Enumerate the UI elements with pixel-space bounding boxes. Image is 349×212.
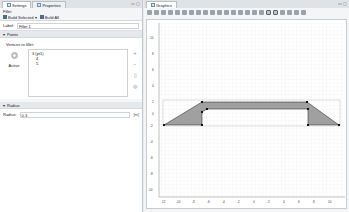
hide-icon[interactable] (245, 10, 250, 15)
graphics-panel: Graphics ▭ ▢ (144, 0, 349, 212)
panel-tabs: Settings Properties ▭ ▢ (0, 0, 142, 8)
svg-text:4: 4 (283, 200, 285, 204)
label-row: Label: Fillet 1 (0, 21, 142, 31)
build-icon (3, 15, 7, 19)
view-3-icon[interactable] (280, 10, 285, 15)
tab-settings[interactable]: Settings (2, 1, 31, 8)
radius-input[interactable]: 0.3 (20, 112, 131, 118)
svg-text:10: 10 (150, 36, 154, 40)
svg-text:6: 6 (152, 68, 154, 72)
zoom-box-icon[interactable] (161, 10, 166, 15)
radius-row: Radius: 0.3 [m] (0, 109, 142, 120)
window-controls[interactable]: ▭ ▢ (338, 1, 347, 6)
settings-panel: Settings Properties ▭ ▢ Fillet Build Sel… (0, 0, 143, 212)
clear-icon[interactable]: ▯ (134, 72, 137, 78)
graphics-tabs: Graphics ▭ ▢ (144, 0, 349, 8)
print-icon[interactable] (301, 10, 306, 15)
screenshot-icon[interactable] (294, 10, 299, 15)
vertices-label: Vertices to fillet: (6, 42, 139, 47)
wireframe-icon[interactable] (231, 10, 236, 15)
svg-text:8: 8 (313, 200, 315, 204)
select-icon[interactable] (182, 10, 187, 15)
svg-text:-4: -4 (222, 200, 225, 204)
label-caption: Label: (3, 23, 14, 28)
svg-text:-10: -10 (148, 188, 153, 192)
select-domains-icon[interactable] (196, 10, 201, 15)
build-all-button[interactable]: Build All (40, 15, 59, 20)
collapse-icon: ▾ (3, 103, 5, 108)
zoom-out-icon[interactable] (154, 10, 159, 15)
show-icon[interactable] (252, 10, 257, 15)
svg-text:2: 2 (268, 200, 270, 204)
svg-text:8: 8 (152, 52, 154, 56)
add-icon[interactable]: + (134, 50, 137, 56)
svg-text:-12: -12 (161, 200, 166, 204)
grid-icon[interactable] (217, 10, 222, 15)
points-section-body: Vertices to fillet: Active 3 (pt1) 4 5 +… (0, 38, 142, 99)
svg-text:-10: -10 (176, 200, 181, 204)
svg-text:-4: -4 (150, 140, 153, 144)
view-2-icon[interactable] (273, 10, 278, 15)
svg-text:-8: -8 (150, 172, 153, 176)
svg-text:0: 0 (152, 112, 154, 116)
svg-text:0: 0 (253, 200, 255, 204)
render-icon[interactable] (238, 10, 243, 15)
radius-unit: [m] (133, 112, 139, 117)
svg-text:4: 4 (152, 84, 154, 88)
zoom-extents-icon[interactable] (168, 10, 173, 15)
axis-icon[interactable] (224, 10, 229, 15)
panel-empty-area (0, 120, 142, 212)
radius-caption: Radius: (3, 112, 17, 117)
svg-text:-6: -6 (207, 200, 210, 204)
tab-properties[interactable]: Properties (32, 1, 65, 8)
select-boundaries-icon[interactable] (203, 10, 208, 15)
transparency-icon[interactable] (175, 10, 180, 15)
graphics-toolbar (144, 8, 349, 16)
collapse-icon: ▾ (3, 32, 5, 37)
svg-text:6: 6 (298, 200, 300, 204)
tab-graphics[interactable]: Graphics (146, 1, 177, 8)
zoom-in-icon[interactable] (147, 10, 152, 15)
build-all-icon (40, 15, 44, 19)
reset-icon[interactable] (287, 10, 292, 15)
zoom-selection-icon[interactable]: ◎ (133, 83, 137, 89)
graphics-canvas[interactable]: 10 8 6 4 2 0 -2 -4 -6 -8 -10 -12 -10 -8 … (146, 19, 347, 209)
geometry-plot: 10 8 6 4 2 0 -2 -4 -6 -8 -10 -12 -10 -8 … (147, 20, 348, 210)
arrow-icon[interactable] (189, 10, 194, 15)
remove-icon[interactable]: − (134, 61, 137, 67)
svg-text:-8: -8 (192, 200, 195, 204)
window-controls[interactable]: ▭ ▢ (131, 1, 140, 6)
radius-section-header[interactable]: ▾Radius (0, 102, 142, 109)
active-toggle[interactable] (11, 52, 18, 59)
svg-text:-2: -2 (237, 200, 240, 204)
points-section-header[interactable]: ▾Points (0, 31, 142, 38)
x-tick-labels: -12 -10 -8 -6 -4 -2 0 2 4 6 8 10 (161, 200, 332, 204)
vertices-list[interactable]: 3 (pt1) 4 5 (28, 49, 128, 97)
properties-icon (37, 3, 41, 7)
svg-text:10: 10 (328, 200, 332, 204)
panel-title: Fillet (0, 8, 142, 15)
build-selected-button[interactable]: Build Selected ▾ (3, 15, 37, 20)
svg-text:-6: -6 (150, 156, 153, 160)
graphics-icon (151, 3, 155, 7)
label-input[interactable]: Fillet 1 (17, 23, 139, 29)
labels-icon[interactable] (259, 10, 264, 15)
list-item[interactable]: 5 (32, 61, 124, 66)
y-tick-labels: 10 8 6 4 2 0 -2 -4 -6 -8 -10 (148, 36, 154, 192)
svg-text:-2: -2 (150, 124, 153, 128)
view-icon[interactable] (266, 10, 271, 15)
select-points-icon[interactable] (210, 10, 215, 15)
settings-icon (7, 3, 11, 7)
active-label: Active (9, 63, 20, 68)
svg-text:2: 2 (152, 100, 154, 104)
